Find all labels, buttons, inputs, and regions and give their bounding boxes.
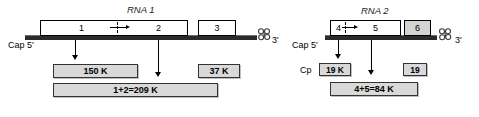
rna1-title: RNA 1 (127, 5, 155, 15)
rna1-orf-1-label: 1 (79, 24, 84, 33)
rna1-product-209k: 1+2=209 K (53, 83, 218, 97)
rna1-product-209k-label: 1+2=209 K (113, 85, 158, 95)
rna2-title: RNA 2 (361, 6, 389, 16)
rna2-product-19k: 19 K (319, 63, 351, 76)
rna1-orf-3-box: 3 (198, 20, 236, 36)
rna1-orf-2-label: 2 (156, 24, 161, 33)
rna2-orf-6-box: 6 (404, 20, 431, 36)
rna2-product-19: 19 (403, 63, 427, 76)
rna1-arrow-209k-line (158, 40, 159, 73)
down-arrow-icon (155, 72, 161, 77)
rna2-orf-4-label: 4 (336, 24, 341, 33)
rna2-arrow-84k-line (371, 40, 372, 71)
rna2-product-84k: 4+5=84 K (330, 82, 418, 96)
trna-clover-icon (256, 27, 272, 43)
down-arrow-icon (72, 55, 78, 60)
rna2-three-prime-label: 3' (455, 36, 462, 45)
down-arrow-icon (368, 70, 374, 75)
rna2-product-84k-label: 4+5=84 K (354, 84, 394, 94)
down-arrow-icon (335, 54, 341, 59)
rna1-product-37k: 37 K (198, 64, 240, 78)
rna2-arrow-19k-line (338, 40, 339, 55)
rna2-cp-label: Cp (300, 66, 312, 75)
rna1-readthrough-arrow-line (110, 27, 127, 28)
rna1-orf12-outline (40, 20, 188, 36)
rna1-orf-3-label: 3 (214, 23, 219, 33)
rna1-product-37k-label: 37 K (209, 66, 228, 76)
rna2-cap-label: Cap 5' (292, 41, 318, 50)
rna1-product-150k-label: 150 K (83, 66, 107, 76)
trna-clover-icon (437, 27, 453, 43)
rna1-orf12-group (40, 20, 188, 36)
rna1-product-150k: 150 K (53, 64, 138, 78)
rna2-orf-5-label: 5 (373, 24, 378, 33)
rna2-product-19-label: 19 (410, 65, 419, 75)
rna1-arrow-150k-line (75, 40, 76, 56)
rna2-product-19k-label: 19 K (326, 65, 344, 75)
rna1-three-prime-label: 3' (272, 36, 279, 45)
right-arrow-icon (126, 25, 130, 29)
rna1-cap-label: Cap 5' (8, 41, 34, 50)
right-arrow-icon (354, 25, 358, 29)
rna2-orf-6-label: 6 (415, 23, 420, 33)
rna-genome-organization-figure: RNA 1 Cap 5' 1 2 3 3' (0, 0, 479, 117)
